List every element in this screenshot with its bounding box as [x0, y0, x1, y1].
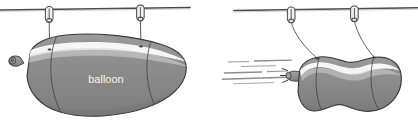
clip-left-icon — [45, 7, 53, 23]
balloon-nozzle-closed — [9, 56, 24, 66]
escaping-air — [222, 60, 292, 84]
balloon-inflated: balloon — [9, 34, 192, 121]
figure-canvas: balloon — [0, 0, 418, 121]
support-rod — [234, 8, 418, 12]
panel-left: balloon — [0, 5, 192, 121]
balloon-deflating — [281, 55, 407, 121]
clip-left-icon — [287, 7, 295, 23]
clip-right-icon — [137, 5, 145, 21]
balloon-thrust-figure: balloon — [0, 0, 418, 121]
string-right — [354, 21, 374, 57]
string-left — [291, 22, 317, 58]
clip-right-icon — [351, 6, 359, 22]
balloon-label: balloon — [88, 73, 123, 85]
support-rod — [0, 8, 190, 12]
panel-right — [222, 6, 418, 121]
